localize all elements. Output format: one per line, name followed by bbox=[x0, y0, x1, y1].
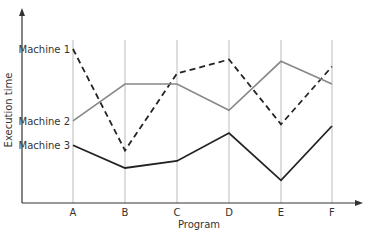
series-lines bbox=[73, 49, 332, 180]
x-tick-label: D bbox=[225, 207, 233, 218]
series-label: Machine 3 bbox=[19, 140, 70, 151]
x-tick-label: C bbox=[174, 207, 181, 218]
x-tick-label: E bbox=[278, 207, 284, 218]
axes bbox=[19, 8, 363, 206]
y-axis-title: Execution time bbox=[3, 73, 14, 148]
vertical-gridlines bbox=[73, 40, 332, 203]
x-tick-label: A bbox=[70, 207, 77, 218]
x-tick-label: B bbox=[122, 207, 129, 218]
series-label: Machine 1 bbox=[19, 44, 70, 55]
y-axis-arrow-icon bbox=[19, 8, 25, 16]
line-chart: ABCDEF Machine 1Machine 2Machine 3 Progr… bbox=[0, 0, 368, 240]
series-line-machine-3 bbox=[73, 126, 332, 180]
series-label: Machine 2 bbox=[19, 116, 70, 127]
series-labels: Machine 1Machine 2Machine 3 bbox=[19, 44, 70, 151]
x-axis-arrow-icon bbox=[355, 200, 363, 206]
series-line-machine-1 bbox=[73, 49, 332, 151]
x-tick-label: F bbox=[329, 207, 335, 218]
x-tick-labels: ABCDEF bbox=[70, 207, 336, 218]
x-axis-title: Program bbox=[178, 219, 220, 230]
